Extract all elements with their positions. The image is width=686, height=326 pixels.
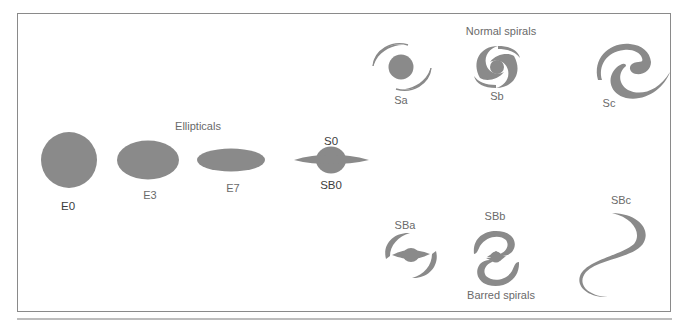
group-title-ellipticals: Ellipticals [175, 121, 221, 132]
galaxy-sbb-shape [474, 231, 519, 286]
galaxy-e0-shape [41, 132, 97, 188]
galaxy-sbc-shape [579, 213, 645, 297]
label-e3: E3 [143, 190, 156, 201]
galaxy-sc-shape [597, 44, 670, 99]
label-sbc: SBc [611, 195, 631, 206]
label-sb: Sb [490, 91, 503, 102]
label-s0: S0 [324, 136, 338, 148]
galaxy-shapes [0, 0, 686, 326]
group-title-normal-spirals: Normal spirals [466, 26, 536, 37]
label-sa: Sa [394, 95, 407, 106]
galaxy-s0-shape [294, 147, 369, 174]
galaxy-sba-shape [385, 233, 437, 278]
galaxy-sa-shape [373, 44, 431, 91]
galaxy-e7-shape [197, 149, 265, 172]
label-e0: E0 [61, 201, 75, 213]
galaxy-sb-shape [474, 46, 520, 88]
group-title-barred-spirals: Barred spirals [467, 290, 535, 301]
label-sba: SBa [395, 220, 416, 231]
label-e7: E7 [226, 183, 239, 194]
galaxy-e3-shape [117, 141, 179, 180]
label-sc: Sc [603, 98, 616, 109]
label-sbb: SBb [485, 211, 506, 222]
label-sb0: SB0 [320, 180, 342, 192]
